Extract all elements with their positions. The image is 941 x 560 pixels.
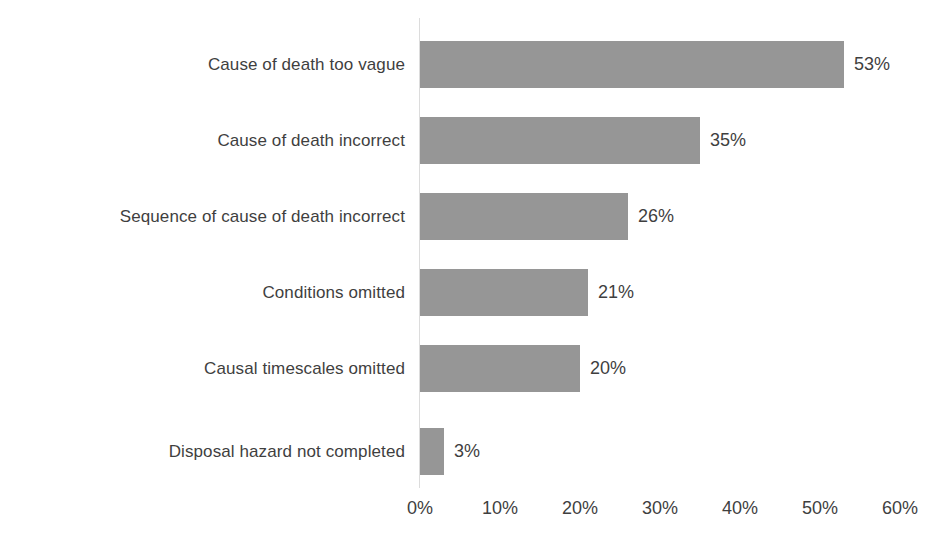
bar-value-label: 35% [710, 117, 746, 164]
bar-chart: Cause of death too vague 53% Cause of de… [0, 0, 941, 560]
category-label: Cause of death incorrect [217, 117, 405, 164]
chart-bar-row: Disposal hazard not completed 3% [0, 428, 941, 475]
bar-value-label: 53% [854, 41, 890, 88]
bar-value-label: 21% [598, 269, 634, 316]
bar[interactable] [420, 269, 588, 316]
category-label: Disposal hazard not completed [169, 428, 405, 475]
value-axis-line [419, 18, 420, 488]
chart-bar-row: Conditions omitted 21% [0, 269, 941, 316]
bar[interactable] [420, 117, 700, 164]
bar-value-label: 20% [590, 345, 626, 392]
category-label: Sequence of cause of death incorrect [120, 193, 405, 240]
category-label: Causal timescales omitted [204, 345, 405, 392]
x-axis-tick-label: 60% [860, 498, 940, 519]
bar[interactable] [420, 193, 628, 240]
bar[interactable] [420, 41, 844, 88]
x-axis-tick-label: 40% [700, 498, 780, 519]
bar-value-label: 3% [454, 428, 480, 475]
chart-bar-row: Causal timescales omitted 20% [0, 345, 941, 392]
category-label: Cause of death too vague [208, 41, 405, 88]
chart-bar-row: Sequence of cause of death incorrect 26% [0, 193, 941, 240]
x-axis-tick-label: 0% [380, 498, 460, 519]
x-axis-tick-label: 20% [540, 498, 620, 519]
bar-value-label: 26% [638, 193, 674, 240]
chart-bar-row: Cause of death incorrect 35% [0, 117, 941, 164]
bar[interactable] [420, 345, 580, 392]
x-axis-tick-labels: 0% 10% 20% 30% 40% 50% 60% [0, 498, 941, 528]
x-axis-tick-label: 10% [460, 498, 540, 519]
category-label: Conditions omitted [262, 269, 405, 316]
chart-bar-row: Cause of death too vague 53% [0, 41, 941, 88]
bar[interactable] [420, 428, 444, 475]
x-axis-tick-label: 30% [620, 498, 700, 519]
x-axis-tick-label: 50% [780, 498, 860, 519]
